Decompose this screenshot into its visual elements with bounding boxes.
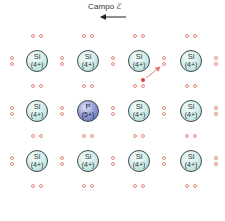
valence-electron: [10, 62, 14, 66]
valence-electron: [39, 134, 43, 138]
free-electron: [141, 78, 145, 82]
valence-electron: [39, 184, 43, 188]
valence-electron: [214, 62, 218, 66]
valence-electron: [31, 134, 35, 138]
atom-si: Si(4+): [128, 100, 150, 122]
valence-electron: [214, 112, 218, 116]
valence-electron: [141, 84, 145, 88]
valence-electron: [82, 134, 86, 138]
valence-electron: [111, 162, 115, 166]
valence-electron: [214, 56, 218, 60]
valence-electron: [10, 56, 14, 60]
valence-electron: [90, 184, 94, 188]
valence-electron: [60, 62, 64, 66]
valence-electron: [31, 184, 35, 188]
atom-si: Si(4+): [180, 50, 202, 72]
atom-si: Si(4+): [26, 100, 48, 122]
valence-electron: [185, 34, 189, 38]
valence-electron: [111, 106, 115, 110]
valence-electron: [214, 106, 218, 110]
valence-electron: [60, 106, 64, 110]
atom-si: Si(4+): [180, 100, 202, 122]
atom-charge: (4+): [185, 111, 198, 119]
valence-electron: [60, 156, 64, 160]
valence-electron: [141, 134, 145, 138]
atom-charge: (4+): [31, 111, 44, 119]
atom-charge: (4+): [133, 111, 146, 119]
atom-p: P(5+): [77, 100, 99, 122]
valence-electron: [111, 56, 115, 60]
valence-electron: [31, 84, 35, 88]
atom-si: Si(4+): [128, 50, 150, 72]
valence-electron: [111, 112, 115, 116]
valence-electron: [111, 62, 115, 66]
atom-charge: (4+): [82, 61, 95, 69]
valence-electron: [193, 184, 197, 188]
valence-electron: [10, 106, 14, 110]
electron-motion-arrow-icon: [146, 67, 160, 78]
atom-element: Si: [136, 53, 143, 61]
atom-element: Si: [136, 103, 143, 111]
atom-charge: (4+): [133, 61, 146, 69]
atom-element: Si: [188, 53, 195, 61]
semiconductor-lattice-diagram: Campoℰ Si(4+)Si(4+)Si(4+)Si(4+)Si(4+)P(5…: [0, 0, 225, 221]
valence-electron: [111, 156, 115, 160]
valence-electron: [10, 162, 14, 166]
valence-electron: [82, 84, 86, 88]
atom-si: Si(4+): [77, 50, 99, 72]
valence-electron: [193, 84, 197, 88]
valence-electron: [60, 56, 64, 60]
valence-electron: [162, 106, 166, 110]
valence-electron: [10, 112, 14, 116]
atom-charge: (4+): [31, 61, 44, 69]
valence-electron: [133, 84, 137, 88]
valence-electron: [82, 34, 86, 38]
atom-charge: (4+): [31, 161, 44, 169]
atom-element: Si: [188, 153, 195, 161]
valence-electron: [90, 134, 94, 138]
valence-electron: [90, 84, 94, 88]
atom-element: Si: [85, 153, 92, 161]
atom-element: Si: [188, 103, 195, 111]
atom-charge: (4+): [185, 161, 198, 169]
valence-electron: [193, 34, 197, 38]
valence-electron: [39, 84, 43, 88]
valence-electron: [162, 62, 166, 66]
valence-electron: [162, 156, 166, 160]
atom-element: Si: [85, 53, 92, 61]
valence-electron: [60, 112, 64, 116]
valence-electron: [214, 162, 218, 166]
atom-si: Si(4+): [26, 150, 48, 172]
atom-si: Si(4+): [26, 50, 48, 72]
valence-electron: [90, 34, 94, 38]
valence-electron: [141, 184, 145, 188]
valence-electron: [185, 84, 189, 88]
valence-electron: [162, 56, 166, 60]
valence-electron: [162, 112, 166, 116]
valence-electron: [185, 134, 189, 138]
valence-electron: [133, 34, 137, 38]
valence-electron: [31, 34, 35, 38]
valence-electron: [82, 184, 86, 188]
atom-element: P: [85, 103, 90, 111]
atom-si: Si(4+): [180, 150, 202, 172]
atom-charge: (5+): [82, 111, 95, 119]
valence-electron: [133, 184, 137, 188]
valence-electron: [133, 134, 137, 138]
atom-si: Si(4+): [77, 150, 99, 172]
atom-charge: (4+): [185, 61, 198, 69]
atom-si: Si(4+): [128, 150, 150, 172]
atom-element: Si: [34, 53, 41, 61]
atom-element: Si: [34, 153, 41, 161]
valence-electron: [141, 34, 145, 38]
valence-electron: [214, 156, 218, 160]
atom-charge: (4+): [133, 161, 146, 169]
valence-electron: [185, 184, 189, 188]
atom-charge: (4+): [82, 161, 95, 169]
valence-electron: [39, 34, 43, 38]
valence-electron: [10, 156, 14, 160]
valence-electron: [60, 162, 64, 166]
atom-element: Si: [34, 103, 41, 111]
valence-electron: [162, 162, 166, 166]
valence-electron: [193, 134, 197, 138]
